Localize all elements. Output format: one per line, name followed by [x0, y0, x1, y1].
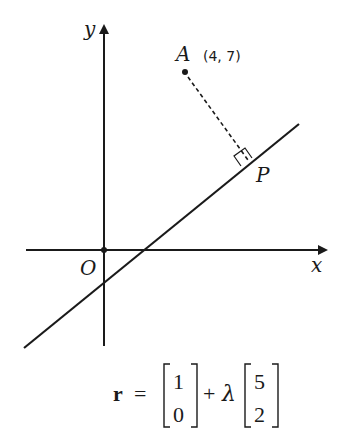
y-axis-label: y: [83, 17, 96, 41]
equation-plus: +: [203, 381, 215, 406]
equation-lhs: r: [113, 381, 123, 406]
vector2-left-bracket: [245, 364, 251, 427]
point-a-coords: (4, 7): [203, 48, 241, 64]
vector-line: [24, 124, 299, 348]
vector2-bottom: 2: [254, 402, 265, 427]
line-equation: r = 1 0 + λ 5 2: [113, 364, 278, 427]
diagram-canvas: y x O A (4, 7) P r = 1 0 + λ 5 2: [0, 0, 345, 445]
origin-label: O: [80, 256, 96, 280]
vector2-top: 5: [254, 369, 265, 394]
point-a: [182, 69, 188, 75]
foot-p-label: P: [255, 163, 270, 187]
equation-equals: =: [134, 381, 146, 406]
vector1-bottom: 0: [173, 402, 184, 427]
point-a-label: A: [174, 42, 190, 66]
vector1-top: 1: [173, 369, 184, 394]
vector1-right-bracket: [191, 364, 197, 427]
vector1-left-bracket: [164, 364, 170, 427]
equation-lambda: λ: [221, 381, 236, 406]
origin-point: [101, 247, 107, 253]
vector2-right-bracket: [272, 364, 278, 427]
x-axis-label: x: [311, 253, 322, 277]
perpendicular-dashed-line: [188, 77, 248, 160]
